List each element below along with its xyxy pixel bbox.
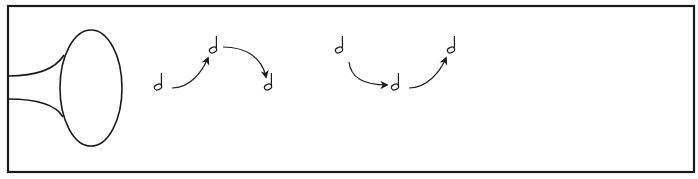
arrow-down-fall-then-rise-1 <box>349 62 387 85</box>
horn-bell-icon <box>8 30 122 146</box>
half-note-fall-then-rise-2 <box>390 73 399 91</box>
horn-bell-opening <box>60 30 122 146</box>
horn-lower-edge <box>8 99 63 117</box>
diagram-frame <box>8 6 694 172</box>
arrow-up-rise-then-fall-1 <box>172 58 208 88</box>
arrow-up-fall-then-rise-2 <box>409 58 446 88</box>
horn-upper-edge <box>8 55 64 76</box>
half-note-fall-then-rise-3 <box>446 36 455 54</box>
arrow-down-rise-then-fall-2 <box>223 47 266 77</box>
half-note-rise-then-fall-3 <box>263 73 272 91</box>
half-note-rise-then-fall-1 <box>153 73 162 91</box>
half-note-rise-then-fall-2 <box>208 36 217 54</box>
notes-layer <box>153 36 455 91</box>
pitch-contour-diagram <box>0 0 698 179</box>
half-note-fall-then-rise-1 <box>334 36 343 54</box>
